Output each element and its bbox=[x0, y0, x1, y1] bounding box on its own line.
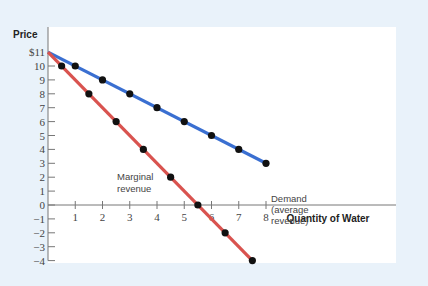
y-tick-label: 6 bbox=[40, 116, 46, 128]
marginal-revenue-label: Marginal revenue bbox=[117, 171, 156, 194]
data-point bbox=[235, 146, 242, 153]
demand-label: Demand (average revenue) bbox=[271, 193, 311, 226]
data-point bbox=[140, 146, 147, 153]
data-point bbox=[72, 62, 79, 69]
data-point bbox=[126, 90, 133, 97]
y-tick-label: −1 bbox=[33, 213, 45, 225]
data-point bbox=[113, 118, 120, 125]
data-point bbox=[208, 132, 215, 139]
y-axis-title: Price bbox=[13, 29, 38, 40]
y-tick-label: 2 bbox=[40, 171, 46, 183]
x-tick-label: 1 bbox=[73, 211, 79, 223]
y-tick-label: $11 bbox=[29, 46, 45, 58]
x-tick-label: 4 bbox=[154, 211, 160, 223]
y-tick-label: 0 bbox=[40, 199, 46, 211]
y-tick-label: 10 bbox=[34, 60, 46, 72]
y-axis: $11109876543210−1−2−3−4 bbox=[29, 27, 55, 267]
x-tick-label: 8 bbox=[263, 211, 269, 223]
data-point bbox=[249, 257, 256, 264]
data-point bbox=[222, 229, 229, 236]
data-point bbox=[181, 118, 188, 125]
x-tick-label: 2 bbox=[100, 211, 106, 223]
y-tick-label: 4 bbox=[40, 143, 46, 155]
y-tick-label: 7 bbox=[40, 102, 46, 114]
demand-series bbox=[48, 52, 270, 167]
x-tick-label: 5 bbox=[182, 211, 188, 223]
series-layer bbox=[48, 52, 270, 264]
data-point bbox=[167, 174, 174, 181]
data-point bbox=[99, 76, 106, 83]
chart-plot: $11109876543210−1−2−3−4 12345678 Price Q… bbox=[0, 0, 428, 286]
x-tick-label: 3 bbox=[127, 211, 133, 223]
data-point bbox=[58, 62, 65, 69]
data-point bbox=[262, 160, 269, 167]
data-point bbox=[85, 90, 92, 97]
y-tick-label: 9 bbox=[40, 74, 46, 86]
y-tick-label: −3 bbox=[33, 241, 45, 253]
y-tick-label: 1 bbox=[40, 185, 46, 197]
y-tick-label: −4 bbox=[33, 255, 45, 267]
marginal-revenue-series bbox=[48, 52, 256, 264]
data-point bbox=[153, 104, 160, 111]
y-tick-label: −2 bbox=[33, 227, 45, 239]
y-tick-label: 8 bbox=[40, 88, 46, 100]
data-point bbox=[194, 201, 201, 208]
y-tick-label: 3 bbox=[40, 157, 46, 169]
y-tick-label: 5 bbox=[40, 130, 46, 142]
x-tick-label: 7 bbox=[236, 211, 242, 223]
